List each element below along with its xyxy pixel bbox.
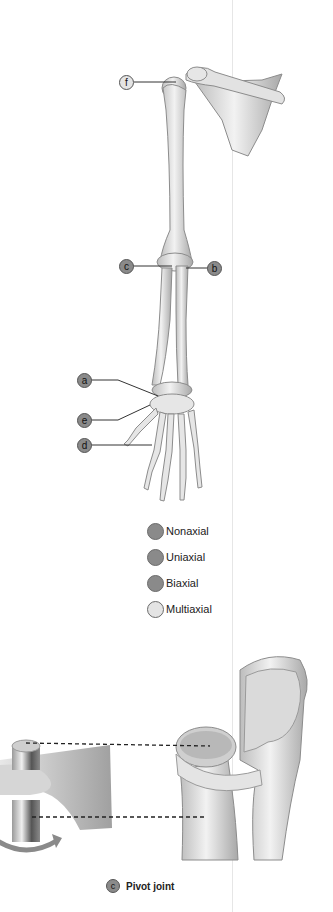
callout-e: e xyxy=(77,413,92,428)
swatch-icon xyxy=(147,601,164,618)
legend-label: Uniaxial xyxy=(166,551,205,563)
pivot-joint-model xyxy=(0,740,112,850)
legend-label: Multiaxial xyxy=(166,603,212,615)
legend-label: Biaxial xyxy=(166,577,198,589)
forearm-bones xyxy=(152,266,192,398)
callout-b: b xyxy=(207,261,222,276)
callout-a: a xyxy=(77,373,92,388)
legend-item-nonaxial: Nonaxial xyxy=(147,518,212,544)
legend-item-multiaxial: Multiaxial xyxy=(147,596,212,622)
scapula xyxy=(186,67,285,156)
legend-item-uniaxial: Uniaxial xyxy=(147,544,212,570)
caption-letter-badge: c xyxy=(106,879,120,893)
callout-d: d xyxy=(77,438,92,453)
callout-c: c xyxy=(119,259,134,274)
humerus xyxy=(157,77,193,271)
legend-item-biaxial: Biaxial xyxy=(147,570,212,596)
legend-label: Nonaxial xyxy=(166,525,209,537)
hand-bones xyxy=(124,394,202,501)
radioulnar-joint-illustration xyxy=(176,657,307,860)
swatch-icon xyxy=(147,549,164,566)
callout-f: f xyxy=(119,75,134,90)
swatch-icon xyxy=(147,575,164,592)
arm-skeleton-illustration xyxy=(0,0,333,912)
figure-caption: c Pivot joint xyxy=(106,879,174,893)
swatch-icon xyxy=(147,523,164,540)
caption-text: Pivot joint xyxy=(126,881,174,892)
joint-type-legend: Nonaxial Uniaxial Biaxial Multiaxial xyxy=(147,518,212,622)
